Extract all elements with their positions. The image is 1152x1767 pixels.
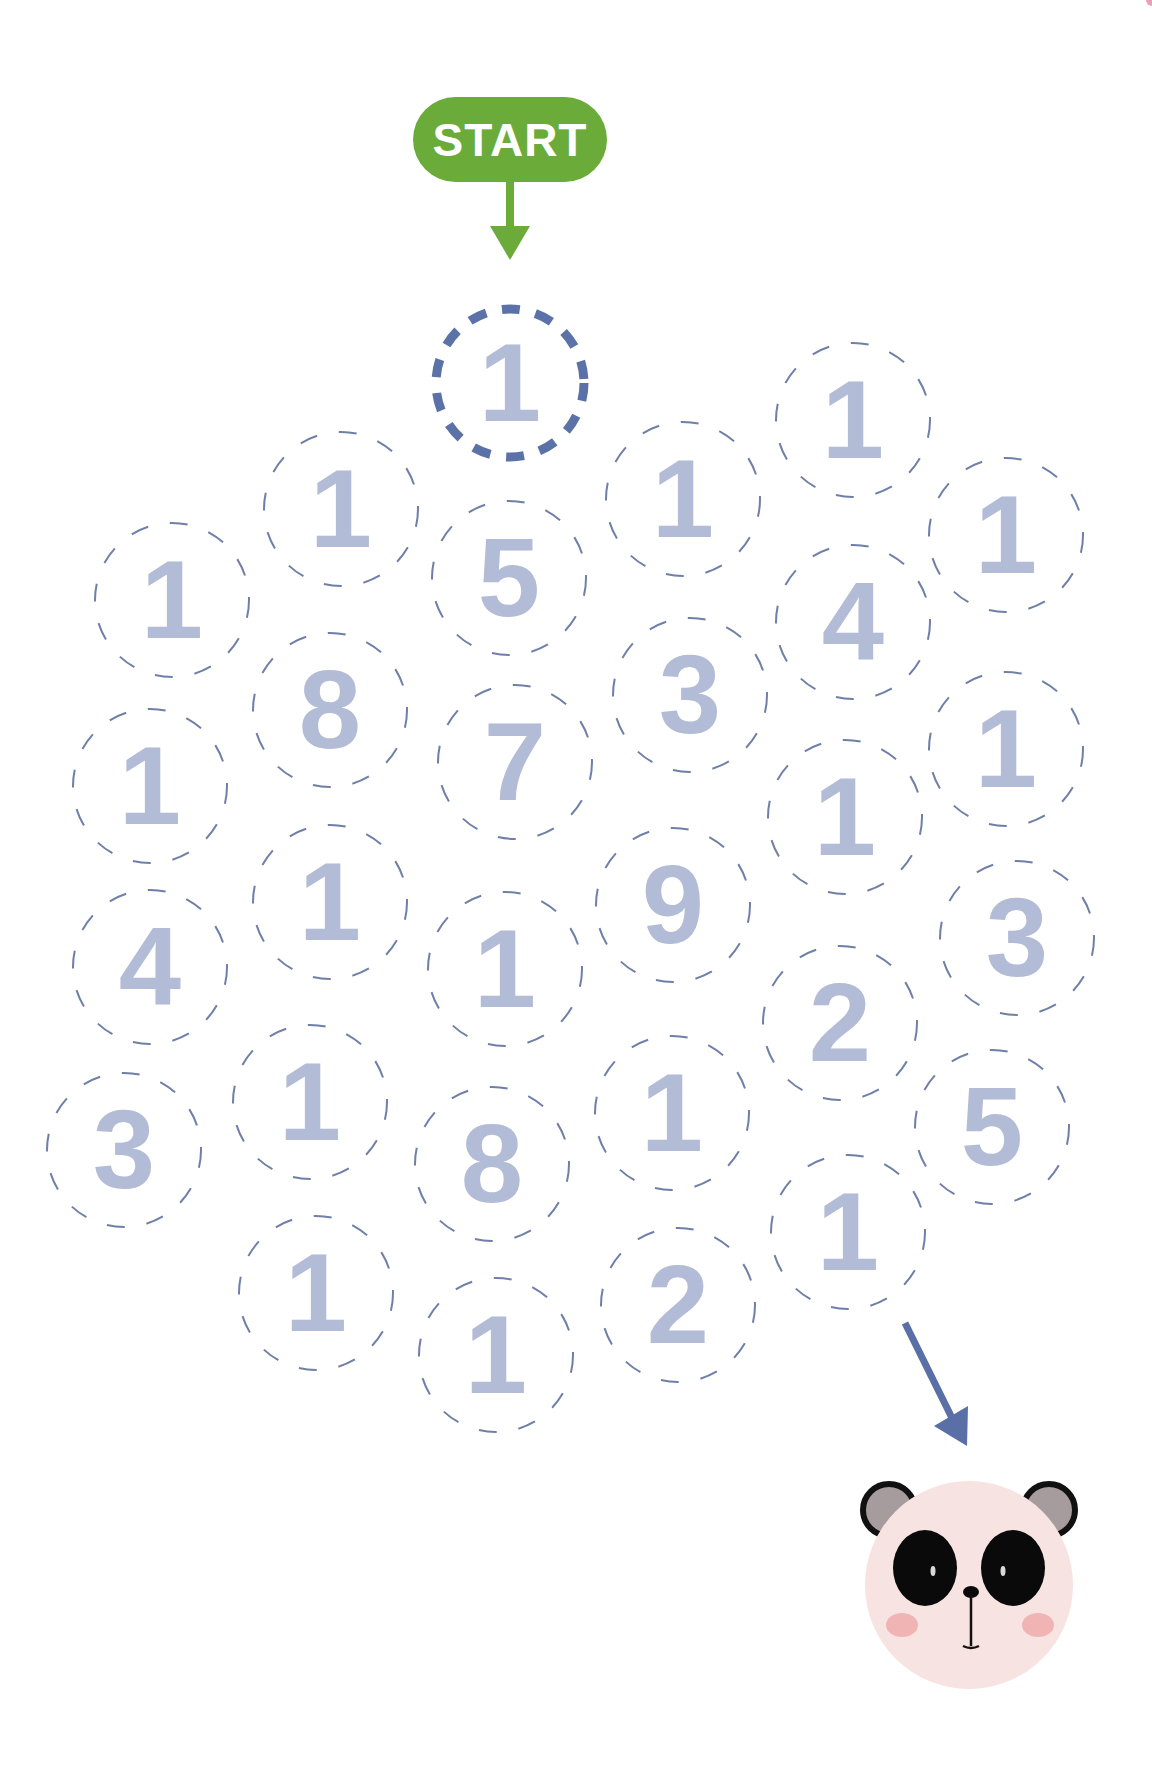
maze-cell[interactable]: 1 [418,1277,574,1433]
cell-digit: 1 [141,544,203,656]
cell-digit: 1 [465,1299,527,1411]
maze-cell[interactable]: 1 [94,522,250,678]
cell-digit: 9 [642,849,704,961]
maze-cell[interactable]: 1 [263,431,419,587]
maze-cell[interactable]: 1 [775,342,931,498]
cell-digit: 3 [986,882,1048,994]
cell-digit: 2 [809,967,871,1079]
maze-cell[interactable]: 8 [414,1086,570,1242]
cell-digit: 1 [652,443,714,555]
maze-cell[interactable]: 1 [252,824,408,980]
maze-cell[interactable]: 1 [72,708,228,864]
maze-cell[interactable]: 4 [72,889,228,1045]
cell-digit: 3 [93,1094,155,1206]
maze-cell[interactable]: 1 [928,671,1084,827]
maze-page: START 11511118734111191341812 [0,0,1152,1767]
cell-digit: 7 [484,706,546,818]
cell-digit: 8 [461,1108,523,1220]
maze-cell[interactable]: 1 [605,421,761,577]
maze-cell[interactable]: 5 [914,1049,1070,1205]
cell-digit: 3 [659,639,721,751]
cell-digit: 1 [641,1057,703,1169]
maze-cell[interactable]: 1 [594,1035,750,1191]
maze-cell[interactable]: 5 [431,500,587,656]
cell-digit: 1 [299,846,361,958]
maze-cell[interactable]: 3 [939,860,1095,1016]
maze-cell[interactable]: 1 [770,1154,926,1310]
cell-digit: 8 [299,654,361,766]
maze-cell[interactable]: 1 [928,457,1084,613]
maze-cell[interactable]: 3 [612,617,768,773]
cell-digit: 1 [975,479,1037,591]
maze-cell[interactable]: 2 [762,945,918,1101]
cell-digit: 1 [285,1237,347,1349]
cell-digit: 1 [814,761,876,873]
maze-cell[interactable]: 4 [775,544,931,700]
cell-digit: 1 [279,1046,341,1158]
cell-digit: 1 [310,453,372,565]
cell-digit: 1 [474,913,536,1025]
cell-digit: 1 [822,364,884,476]
maze-cell[interactable]: 3 [46,1072,202,1228]
maze-cell[interactable]: 1 [238,1215,394,1371]
cell-digit: 1 [817,1176,879,1288]
cell-digit: 4 [119,911,181,1023]
maze-cell[interactable]: 8 [252,632,408,788]
cell-digit: 2 [647,1249,709,1361]
maze-cell[interactable]: 7 [437,684,593,840]
maze-cell[interactable]: 1 [232,1024,388,1180]
maze-cell[interactable]: 2 [600,1227,756,1383]
cell-digit: 5 [478,522,540,634]
cell-digit: 1 [119,730,181,842]
cell-digit: 1 [479,327,541,439]
cell-digit: 5 [961,1071,1023,1183]
cell-digit: 4 [822,566,884,678]
maze-cell[interactable]: 9 [595,827,751,983]
maze-cell[interactable]: 1 [427,891,583,1047]
maze-cell[interactable]: 1 [767,739,923,895]
maze-cell-start[interactable]: 1 [432,305,588,461]
cell-digit: 1 [975,693,1037,805]
